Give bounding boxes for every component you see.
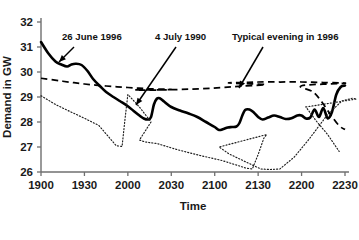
annotation-group: 26 June 19964 July 1990Typical evening i…	[59, 31, 338, 105]
annotation-label: Typical evening in 1996	[232, 31, 338, 42]
chart-container: 26272829303132 1900193020002030210021302…	[0, 0, 359, 240]
data-series-group	[41, 42, 357, 170]
y-axis-tick-label: 27	[20, 141, 33, 153]
annotation-label: 4 July 1990	[155, 31, 206, 42]
y-axis-tick-label: 28	[20, 116, 33, 128]
x-axis-tick-label: 1930	[72, 179, 98, 191]
x-axis-tick-label: 2230	[332, 179, 358, 191]
y-axis-tick-label: 29	[20, 91, 33, 103]
series-line-typical-evening-in-1996	[41, 78, 345, 129]
x-axis-tick-label: 2000	[115, 179, 141, 191]
y-axis-tick-label: 32	[20, 16, 33, 28]
x-axis-tick-label: 2200	[289, 179, 315, 191]
annot-4-july-1990: 4 July 1990	[136, 31, 206, 105]
x-axis-title: Time	[180, 200, 207, 212]
y-axis-tick-label: 26	[20, 166, 33, 178]
y-axis-tick-label-group: 26272829303132	[20, 16, 33, 178]
y-axis-title: Demand in GW	[1, 56, 13, 138]
annotation-arrow-head	[136, 98, 142, 105]
y-axis-tick-label: 30	[20, 66, 33, 78]
x-axis-tick-label: 2130	[245, 179, 271, 191]
x-axis-tick-label: 2100	[202, 179, 228, 191]
annotation-label: 26 June 1996	[62, 31, 122, 42]
x-axis-tick-label: 1900	[28, 179, 54, 191]
series-line-4-july-1990	[41, 95, 357, 170]
series-line-26-june-1996	[41, 42, 345, 130]
x-axis-tick-label: 2030	[158, 179, 184, 191]
x-axis-tick-label-group: 19001930200020302100213022002230	[28, 179, 358, 191]
demand-vs-time-line-chart: 26272829303132 1900193020002030210021302…	[0, 0, 359, 240]
annotation-arrow-shaft	[136, 47, 176, 105]
y-axis-tick-label: 31	[20, 41, 33, 53]
annot-typical-evening-1996: Typical evening in 1996	[232, 31, 338, 88]
annot-26-june-1996: 26 June 1996	[59, 31, 122, 62]
